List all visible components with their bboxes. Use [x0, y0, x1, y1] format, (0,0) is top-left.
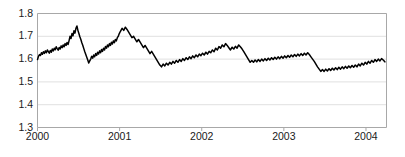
x-tick-label: 2002 [182, 131, 222, 142]
y-tick-label: 1.6 [7, 53, 33, 64]
series-rate-path [38, 26, 385, 71]
data-series-line [38, 26, 385, 71]
y-tick-label: 1.7 [7, 30, 33, 41]
x-tick-label: 2003 [264, 131, 304, 142]
x-tick-label: 2001 [100, 131, 140, 142]
x-tick-label: 2000 [18, 131, 58, 142]
y-tick-label: 1.8 [7, 8, 33, 19]
y-tick-label: 1.5 [7, 76, 33, 87]
gridlines [38, 14, 387, 105]
y-tick-label: 1.4 [7, 99, 33, 110]
line-chart: 1.81.71.61.51.41.3 20002001200220032004 [0, 0, 405, 157]
x-tick-label: 2004 [346, 131, 386, 142]
